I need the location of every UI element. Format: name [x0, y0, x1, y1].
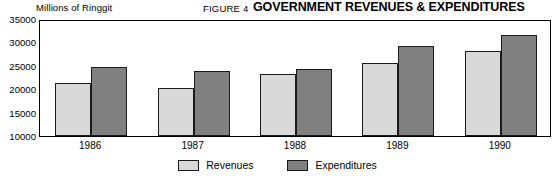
bar-expenditures-1988 [296, 69, 332, 136]
plot-area [39, 20, 551, 137]
bar-expenditures-1987 [194, 71, 230, 136]
bar-revenues-1988 [260, 74, 296, 136]
chart-legend: RevenuesExpenditures [0, 156, 555, 174]
legend-label: Revenues [206, 159, 253, 171]
x-axis-tick-label: 1987 [141, 139, 243, 152]
x-axis-tick-label: 1988 [244, 139, 346, 152]
y-axis-tick-label: 25000 [0, 62, 36, 72]
legend-entry-expenditures[interactable]: Expenditures [287, 159, 376, 171]
bars-container [40, 21, 550, 136]
chart-title: GOVERNMENT REVENUES & EXPENDITURES [253, 0, 525, 14]
bar-revenues-1986 [55, 83, 91, 136]
bar-expenditures-1989 [398, 46, 434, 136]
bar-revenues-1989 [362, 63, 398, 136]
y-axis-tick-label: 10000 [0, 132, 36, 142]
legend-entry-revenues[interactable]: Revenues [178, 159, 253, 171]
y-axis-tick-label: 15000 [0, 109, 36, 119]
x-axis-tick-label: 1989 [346, 139, 448, 152]
figure-number-label: FIGURE 4 [203, 3, 248, 14]
x-axis-tick-label: 1990 [449, 139, 551, 152]
y-axis: 350003000025000200001500010000 [0, 20, 36, 137]
y-axis-tick-label: 30000 [0, 38, 36, 48]
y-axis-tick-label: 20000 [0, 85, 36, 95]
bar-expenditures-1990 [501, 35, 537, 136]
x-axis-tick-label: 1986 [39, 139, 141, 152]
chart-figure: Millions of Ringgit FIGURE 4 GOVERNMENT … [0, 0, 555, 176]
bar-revenues-1987 [158, 88, 194, 136]
legend-label: Expenditures [315, 159, 376, 171]
bar-expenditures-1986 [91, 67, 127, 136]
y-axis-unit-label: Millions of Ringgit [36, 2, 112, 13]
x-axis: 19861987198819891990 [39, 139, 551, 155]
bar-revenues-1990 [465, 51, 501, 136]
y-axis-tick-label: 35000 [0, 15, 36, 25]
legend-swatch-revenues-icon [178, 160, 199, 171]
legend-swatch-expenditures-icon [287, 160, 308, 171]
